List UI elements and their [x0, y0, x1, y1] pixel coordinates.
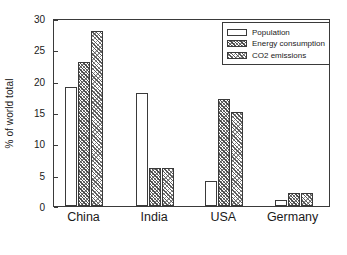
bar [301, 193, 313, 206]
bar [162, 168, 174, 206]
bar [136, 93, 148, 206]
bar [149, 168, 161, 206]
bar [205, 181, 217, 206]
y-tick-label: 15 [34, 108, 45, 119]
legend-item: CO2 emissions [227, 50, 325, 61]
y-axis-label: % of world total [5, 78, 16, 148]
y-tick-mark [54, 145, 58, 146]
x-tick-label: India [141, 210, 168, 224]
legend-swatch-icon [227, 52, 247, 59]
bar-chart-figure: % of world total 051015202530 ChinaIndia… [0, 0, 347, 255]
legend-item: Energy consumption [227, 38, 325, 49]
chart-legend: PopulationEnergy consumptionCO2 emission… [222, 22, 330, 65]
y-tick-mark [54, 83, 58, 84]
y-tick-label: 10 [34, 139, 45, 150]
bar [288, 193, 300, 206]
y-tick-mark [54, 114, 58, 115]
y-tick-label: 5 [39, 170, 45, 181]
y-axis-tick-labels: 051015202530 [16, 19, 49, 207]
y-tick-mark [54, 51, 58, 52]
y-tick-label: 30 [34, 14, 45, 25]
y-tick-mark [54, 207, 58, 208]
legend-item: Population [227, 27, 325, 38]
legend-swatch-icon [227, 40, 247, 47]
x-tick-label: Germany [267, 210, 318, 224]
legend-label: CO2 emissions [252, 51, 306, 60]
bar-group [54, 20, 123, 206]
bar [91, 31, 103, 206]
bar [231, 112, 243, 206]
bar [78, 62, 90, 206]
x-tick-label: China [67, 210, 100, 224]
legend-label: Population [252, 28, 290, 37]
bar-group [123, 20, 192, 206]
x-axis-tick-labels: ChinaIndiaUSAGermany [53, 210, 330, 234]
legend-label: Energy consumption [252, 39, 325, 48]
bar [65, 87, 77, 206]
y-tick-label: 0 [39, 202, 45, 213]
y-tick-label: 20 [34, 76, 45, 87]
y-tick-mark [54, 177, 58, 178]
x-tick-label: USA [210, 210, 236, 224]
bar [275, 200, 287, 206]
legend-swatch-icon [227, 29, 247, 36]
y-tick-mark [54, 20, 58, 21]
y-tick-label: 25 [34, 45, 45, 56]
bar [218, 99, 230, 206]
